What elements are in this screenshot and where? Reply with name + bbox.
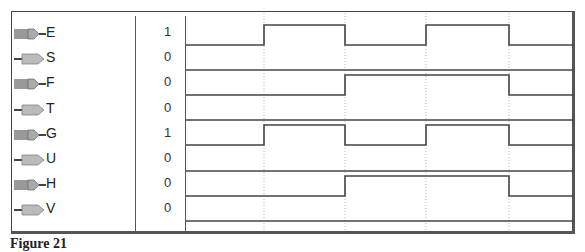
figure-caption: Figure 21 bbox=[10, 236, 67, 252]
waveform-h bbox=[186, 176, 574, 196]
waveform-f bbox=[186, 75, 574, 95]
waveform-e bbox=[186, 25, 574, 45]
waveform-g bbox=[186, 125, 574, 145]
